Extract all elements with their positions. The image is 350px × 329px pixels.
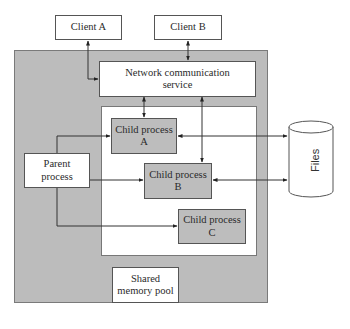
client-a-network-arrow	[88, 41, 98, 79]
parent-child-a-arrow	[57, 136, 110, 153]
files-label: Files	[305, 152, 325, 172]
parent-child-c-arrow	[57, 188, 177, 226]
connector-layer	[0, 0, 350, 329]
